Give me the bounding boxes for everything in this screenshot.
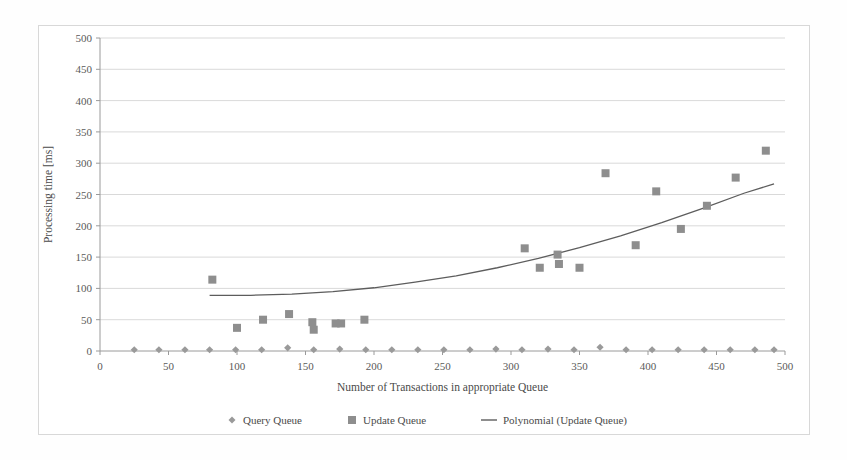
data-point-query-queue (751, 346, 758, 353)
data-point-update-queue (555, 260, 563, 268)
y-tick-label: 250 (76, 189, 93, 201)
x-tick-label: 250 (434, 360, 451, 372)
data-point-update-queue (536, 264, 544, 272)
y-tick-label: 0 (87, 345, 93, 357)
data-point-query-queue (284, 344, 291, 351)
x-tick-label: 50 (163, 360, 175, 372)
data-point-query-queue (414, 346, 421, 353)
x-tick-label: 500 (777, 360, 794, 372)
data-point-update-queue (337, 319, 345, 327)
data-point-update-queue (762, 147, 770, 155)
data-point-query-queue (570, 346, 577, 353)
data-point-query-queue (181, 346, 188, 353)
data-point-query-queue (388, 346, 395, 353)
legend-label-2: Polynomial (Update Queue) (503, 414, 627, 427)
chart-screenshot: 0501001502002503003504004505000501001502… (0, 0, 847, 460)
y-tick-label: 500 (76, 32, 93, 44)
data-point-query-queue (649, 346, 656, 353)
data-point-query-queue (131, 346, 138, 353)
y-tick-label: 450 (76, 63, 93, 75)
x-tick-label: 100 (229, 360, 246, 372)
x-tick-label: 300 (503, 360, 520, 372)
data-point-query-queue (440, 346, 447, 353)
data-point-query-queue (518, 346, 525, 353)
data-point-query-queue (336, 346, 343, 353)
scatter-chart: 0501001502002503003504004505000501001502… (0, 0, 847, 460)
data-point-query-queue (310, 346, 317, 353)
x-axis-title: Number of Transactions in appropriate Qu… (337, 381, 548, 394)
data-point-update-queue (554, 251, 562, 259)
data-point-query-queue (258, 346, 265, 353)
trendline-polynomial (210, 184, 774, 295)
data-point-update-queue (310, 326, 318, 334)
legend-label-0: Query Queue (243, 414, 302, 426)
chart-plot-area: 0501001502002503003504004505000501001502… (0, 0, 847, 460)
y-tick-label: 100 (76, 282, 93, 294)
data-point-query-queue (232, 346, 239, 353)
y-tick-label: 300 (76, 157, 93, 169)
y-tick-label: 200 (76, 220, 93, 232)
data-point-update-queue (732, 174, 740, 182)
y-axis-title: Processing time [ms] (42, 146, 55, 243)
data-point-update-queue (632, 241, 640, 249)
x-tick-label: 200 (366, 360, 383, 372)
x-tick-label: 400 (640, 360, 657, 372)
data-point-query-queue (206, 346, 213, 353)
legend-marker-diamond (229, 417, 236, 424)
y-tick-label: 400 (76, 95, 93, 107)
x-tick-label: 450 (708, 360, 725, 372)
y-tick-label: 150 (76, 251, 93, 263)
data-point-update-queue (576, 264, 584, 272)
data-point-query-queue (544, 346, 551, 353)
data-point-update-queue (703, 202, 711, 210)
y-tick-label: 350 (76, 126, 93, 138)
data-point-query-queue (727, 346, 734, 353)
data-point-query-queue (622, 346, 629, 353)
data-point-update-queue (360, 316, 368, 324)
data-point-update-queue (652, 187, 660, 195)
data-point-update-queue (677, 225, 685, 233)
x-tick-label: 0 (97, 360, 103, 372)
data-point-update-queue (521, 244, 529, 252)
data-point-query-queue (675, 346, 682, 353)
data-point-query-queue (362, 346, 369, 353)
data-point-update-queue (233, 324, 241, 332)
data-point-update-queue (285, 310, 293, 318)
data-point-query-queue (596, 344, 603, 351)
data-point-update-queue (308, 318, 316, 326)
data-point-query-queue (492, 346, 499, 353)
y-tick-label: 50 (81, 314, 93, 326)
data-point-query-queue (770, 346, 777, 353)
data-point-update-queue (259, 316, 267, 324)
x-tick-label: 150 (297, 360, 314, 372)
data-point-update-queue (602, 169, 610, 177)
data-point-query-queue (701, 346, 708, 353)
legend-label-1: Update Queue (363, 414, 426, 426)
data-point-update-queue (208, 276, 216, 284)
x-tick-label: 350 (571, 360, 588, 372)
data-point-query-queue (155, 346, 162, 353)
legend-marker-square (348, 416, 356, 424)
data-point-query-queue (466, 346, 473, 353)
